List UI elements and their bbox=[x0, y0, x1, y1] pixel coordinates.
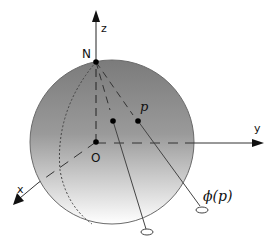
x-axis-label: x bbox=[17, 183, 24, 196]
point-p-label: p bbox=[140, 99, 149, 114]
north-pole-dot bbox=[93, 59, 99, 65]
projection-ellipse-1 bbox=[141, 229, 153, 235]
north-pole-label: N bbox=[82, 47, 91, 61]
projection-ellipse-p bbox=[196, 207, 208, 213]
y-axis-arrow-icon bbox=[252, 139, 264, 147]
z-axis-arrow-icon bbox=[92, 10, 100, 22]
y-axis-label: y bbox=[254, 122, 261, 135]
projection-label: ϕ(p) bbox=[203, 188, 232, 204]
point-p-dot bbox=[135, 118, 141, 124]
z-axis-label: z bbox=[101, 22, 107, 35]
sphere-point-dot bbox=[110, 118, 116, 124]
stereographic-diagram: z N O y x p ϕ(p) bbox=[0, 0, 271, 245]
origin-dot bbox=[93, 139, 99, 145]
origin-label: O bbox=[91, 151, 100, 165]
